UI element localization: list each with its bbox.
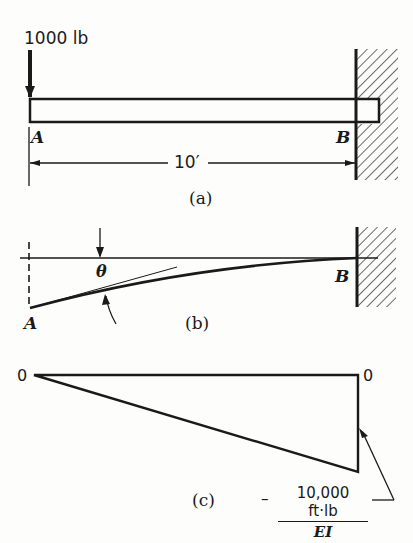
moment-triangle — [34, 375, 358, 472]
moment-value-fraction: 10,000 ft·lb EI — [278, 484, 368, 541]
dimension-arrow-right-icon — [345, 160, 355, 166]
load-label: 1000 lb — [24, 28, 88, 48]
point-b-label: B — [336, 127, 350, 147]
load-arrow-icon — [25, 86, 35, 98]
beam — [30, 99, 379, 122]
curve-leader-arrow-icon — [102, 294, 110, 305]
caption-c: (c) — [192, 490, 215, 510]
theta-pointer-arrow-icon — [96, 247, 104, 258]
caption-b: (b) — [185, 313, 209, 333]
point-b-deflected-label: B — [335, 266, 349, 286]
fixed-support-hatch-b — [358, 227, 396, 307]
span-label: 10′ — [174, 152, 200, 172]
point-a-deflected-label: A — [24, 313, 37, 333]
moment-denominator: EI — [278, 522, 368, 541]
moment-left-zero: 0 — [17, 366, 27, 385]
point-a-label: A — [31, 127, 44, 147]
figure-c-moment-diagram — [34, 375, 394, 500]
moment-numerator: 10,000 ft·lb — [278, 484, 368, 522]
theta-label: θ — [96, 262, 107, 281]
figure-a-cantilever — [25, 49, 398, 186]
dimension-arrow-left-icon — [30, 160, 40, 166]
caption-a: (a) — [189, 188, 212, 208]
moment-leader-arrow-icon — [359, 428, 368, 438]
diagram-canvas — [0, 0, 413, 543]
moment-right-zero: 0 — [363, 366, 373, 385]
moment-sign: – — [261, 490, 269, 508]
elastic-curve — [30, 258, 357, 308]
